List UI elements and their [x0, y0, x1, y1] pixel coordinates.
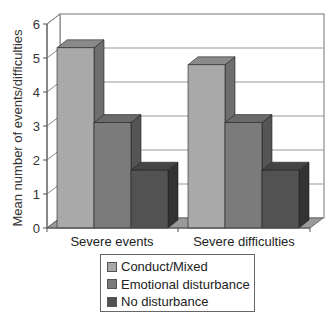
- y-axis-label: Mean number of events/difficulties: [10, 29, 25, 227]
- y-tick-label: 4: [33, 85, 40, 100]
- legend-swatch-icon: [107, 279, 117, 289]
- legend-swatch-icon: [107, 262, 117, 272]
- legend-item: No disturbance: [107, 293, 254, 311]
- legend-label: Emotional disturbance: [121, 277, 250, 292]
- legend: Conduct/Mixed Emotional disturbance No d…: [100, 254, 255, 312]
- y-tick-label: 2: [33, 153, 40, 168]
- legend-item: Conduct/Mixed: [107, 258, 254, 276]
- legend-item: Emotional disturbance: [107, 276, 254, 294]
- bar: [262, 162, 309, 228]
- bar-chart: 0123456 Mean number of events/difficulti…: [0, 0, 334, 250]
- legend-swatch-icon: [107, 297, 117, 307]
- category-label: Severe difficulties: [193, 234, 295, 249]
- y-tick-label: 5: [33, 51, 40, 66]
- bar: [131, 162, 178, 228]
- legend-label: No disturbance: [121, 294, 208, 309]
- y-tick-label: 0: [33, 221, 40, 236]
- y-tick-label: 3: [33, 119, 40, 134]
- y-tick-label: 1: [33, 187, 40, 202]
- legend-label: Conduct/Mixed: [121, 259, 208, 274]
- y-tick-label: 6: [33, 17, 40, 32]
- category-label: Severe events: [70, 234, 154, 249]
